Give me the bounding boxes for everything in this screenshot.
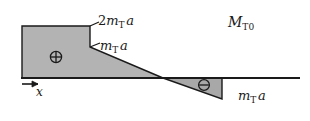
negative-area-region — [163, 78, 222, 99]
label-mid-moment-subscript: T — [112, 45, 118, 55]
label-right-moment: mTa — [238, 89, 266, 105]
label-right-moment-symbol: m — [238, 88, 250, 103]
label-right-moment-subscript: T — [250, 95, 256, 105]
label-top-moment-subscript: T — [119, 20, 125, 30]
label-mid-moment-suffix: a — [120, 38, 128, 53]
label-top-moment-suffix: a — [126, 13, 134, 28]
moment-diagram-figure: 2mTa mTa MT0 mTa x — [0, 0, 310, 121]
label-mid-moment: mTa — [100, 39, 128, 55]
label-top-moment-symbol: m — [106, 13, 118, 28]
positive-area-region — [22, 26, 163, 78]
label-top-moment: 2mTa — [98, 14, 134, 30]
label-mt0-symbol: M — [228, 14, 242, 30]
label-mt0: MT0 — [228, 15, 254, 32]
label-mid-moment-symbol: m — [100, 38, 112, 53]
leader-line-mid-moment — [90, 43, 100, 47]
label-right-moment-suffix: a — [258, 88, 266, 103]
label-x-axis: x — [36, 86, 43, 98]
plus-circle-icon — [50, 51, 61, 62]
label-mt0-subscript: T0 — [242, 22, 254, 32]
label-x-axis-symbol: x — [36, 85, 43, 99]
